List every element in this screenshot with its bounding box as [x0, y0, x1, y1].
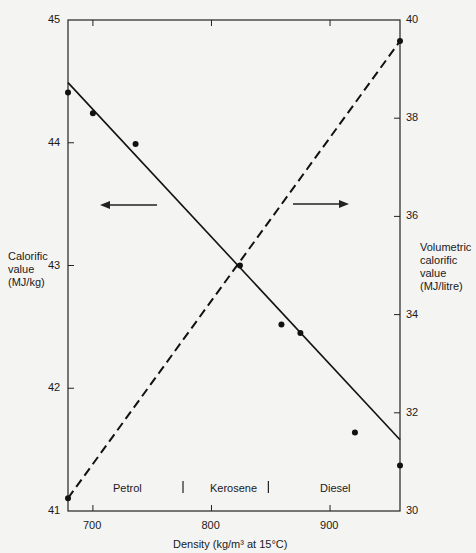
y-right-tick-label: 30: [406, 504, 418, 516]
region-label-petrol: Petrol: [113, 482, 142, 495]
left-axis-label: Calorific value (MJ/kg): [8, 250, 48, 289]
left-arrow-icon: [100, 201, 157, 209]
y-right-tick-label: 36: [406, 209, 418, 221]
right-axis-label-line: value: [420, 267, 471, 280]
right-arrow-icon: [293, 200, 349, 208]
data-point: [133, 141, 139, 147]
y-right-tick-label: 32: [406, 406, 418, 418]
data-point: [397, 38, 403, 44]
y-right-tick-label: 38: [406, 111, 418, 123]
calorific-value-line: [68, 83, 400, 440]
right-axis-label: Volumetric calorific value (MJ/litre): [420, 241, 471, 293]
x-tick-label: 800: [201, 519, 219, 531]
right-axis-label-line: calorific: [420, 254, 471, 267]
x-tick-label: 700: [83, 519, 101, 531]
data-point: [297, 330, 303, 336]
data-point: [90, 110, 96, 116]
y-left-tick-label: 43: [48, 259, 60, 271]
data-point: [397, 463, 403, 469]
x-tick-label: 900: [320, 519, 338, 531]
data-point: [65, 495, 71, 501]
data-point: [237, 263, 243, 269]
left-axis-label-line: Calorific: [8, 250, 48, 263]
data-point: [65, 89, 71, 95]
data-point: [352, 429, 358, 435]
y-left-tick-label: 44: [48, 136, 60, 148]
chart-canvas: [0, 0, 476, 553]
plot-frame: [68, 20, 400, 511]
region-label-diesel: Diesel: [320, 482, 351, 495]
y-right-tick-label: 34: [406, 308, 418, 320]
x-axis-label: Density (kg/m³ at 15°C): [173, 538, 287, 551]
left-axis-label-line: value: [8, 263, 48, 276]
right-axis-label-line: Volumetric: [420, 241, 471, 254]
axis-ticks: [68, 20, 400, 511]
volumetric-value-line: [68, 41, 400, 498]
right-axis-label-line: (MJ/litre): [420, 280, 471, 293]
y-right-tick-label: 40: [406, 13, 418, 25]
left-axis-label-line: (MJ/kg): [8, 276, 48, 289]
region-label-kerosene: Kerosene: [210, 482, 257, 495]
data-point: [278, 321, 284, 327]
y-left-tick-label: 41: [48, 504, 60, 516]
y-left-tick-label: 42: [48, 381, 60, 393]
y-left-tick-label: 45: [48, 13, 60, 25]
